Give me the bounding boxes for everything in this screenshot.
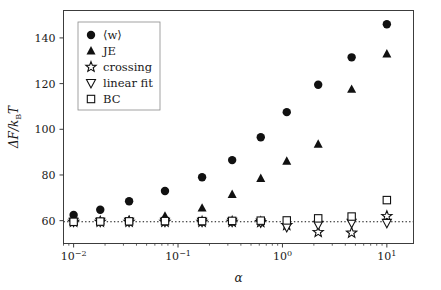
- legend-label: linear fit: [103, 76, 153, 90]
- legend-label: crossing: [103, 60, 153, 74]
- data-point: [228, 189, 237, 197]
- data-point: [70, 218, 77, 225]
- y-tick-label: 100: [35, 123, 56, 136]
- y-tick-label: 120: [35, 78, 56, 91]
- data-point: [96, 205, 104, 213]
- y-tick-label: 60: [42, 215, 56, 228]
- data-point: [198, 203, 207, 211]
- data-point: [198, 217, 205, 224]
- data-point: [161, 187, 169, 195]
- data-point: [348, 213, 355, 220]
- x-axis-label: α: [234, 271, 242, 285]
- data-point: [283, 108, 291, 116]
- scatter-plot: 10−210−11001016080100120140αΔF/kBT⟨w⟩JEc…: [0, 0, 441, 290]
- series-bc: [70, 196, 391, 225]
- data-point: [347, 53, 355, 61]
- data-point: [198, 173, 206, 181]
- data-point: [314, 139, 323, 147]
- data-point: [382, 49, 391, 57]
- data-point: [161, 217, 168, 224]
- x-tick-label: 10−1: [165, 249, 191, 263]
- data-point: [97, 218, 104, 225]
- data-point: [256, 173, 265, 181]
- y-tick-label: 140: [35, 32, 56, 45]
- legend: ⟨w⟩JEcrossinglinear fitBC: [78, 22, 160, 110]
- legend-label: JE: [102, 44, 116, 58]
- x-tick-label: 101: [377, 249, 396, 263]
- data-point: [382, 219, 391, 227]
- y-axis-label: ΔF/kBT: [7, 105, 23, 149]
- data-point: [314, 215, 321, 222]
- data-point: [257, 133, 265, 141]
- data-point: [228, 217, 235, 224]
- y-axis: 6080100120140: [35, 32, 64, 228]
- legend-marker-open-square: [87, 95, 94, 102]
- x-axis: 10−210−1100101: [61, 244, 397, 263]
- legend-marker-filled-circle: [87, 31, 95, 39]
- data-point: [383, 20, 391, 28]
- data-point: [125, 197, 133, 205]
- x-tick-label: 10−2: [61, 249, 87, 263]
- legend-label: BC: [103, 92, 121, 106]
- figure-container: 10−210−11001016080100120140αΔF/kBT⟨w⟩JEc…: [0, 0, 441, 290]
- data-point: [228, 156, 236, 164]
- x-tick-label: 100: [273, 249, 292, 263]
- data-point: [283, 217, 290, 224]
- legend-label: ⟨w⟩: [103, 28, 122, 42]
- y-tick-label: 80: [42, 169, 56, 182]
- data-point: [347, 84, 356, 92]
- data-point: [383, 196, 390, 203]
- data-point: [125, 218, 132, 225]
- data-point: [257, 217, 264, 224]
- data-point: [314, 81, 322, 89]
- data-point: [282, 156, 291, 164]
